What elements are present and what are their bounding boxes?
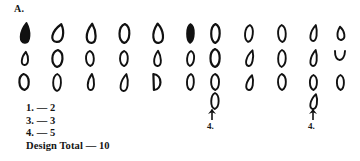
arrow-annotation-label: 4. bbox=[207, 121, 214, 131]
ink-glyph bbox=[274, 47, 290, 70]
ink-glyph bbox=[47, 46, 67, 70]
ink-glyph bbox=[305, 22, 321, 45]
ink-glyph bbox=[183, 21, 198, 46]
ink-glyph bbox=[182, 47, 198, 69]
ink-glyph bbox=[144, 18, 169, 47]
ink-glyph bbox=[82, 47, 99, 69]
ink-glyph bbox=[333, 72, 348, 93]
ink-glyph bbox=[14, 19, 35, 46]
legend-total-row: Design Total — 10 bbox=[26, 140, 110, 153]
ink-glyph bbox=[305, 47, 321, 70]
ink-glyph bbox=[116, 47, 133, 69]
ink-glyph bbox=[240, 46, 258, 70]
ink-glyph bbox=[182, 71, 198, 94]
ink-glyph bbox=[46, 20, 69, 45]
ink-glyph bbox=[306, 72, 321, 93]
legend-row: 4. — 5 bbox=[26, 127, 110, 140]
arrow-annotation-label: 4. bbox=[308, 121, 315, 131]
ink-glyph bbox=[116, 70, 133, 94]
ink-glyph bbox=[240, 21, 258, 46]
ink-glyph bbox=[79, 20, 101, 47]
legend-row: 3. — 3 bbox=[26, 115, 110, 128]
ink-glyph bbox=[241, 71, 258, 93]
legend: 1. — 2 3. — 3 4. — 5 Design Total — 10 bbox=[26, 102, 110, 152]
ink-glyph bbox=[329, 21, 350, 44]
up-arrow-icon bbox=[207, 108, 217, 120]
ink-glyph bbox=[14, 71, 33, 94]
figure-panel-a: A. 1. — 2 3. — 3 4. — 5 Design Total — 1… bbox=[0, 0, 360, 161]
ink-glyph bbox=[114, 20, 134, 46]
ink-glyph bbox=[148, 46, 167, 69]
ink-glyph bbox=[274, 71, 291, 94]
up-arrow-icon bbox=[308, 108, 318, 120]
legend-row: 1. — 2 bbox=[26, 102, 110, 115]
ink-glyph bbox=[149, 71, 166, 93]
ink-glyph bbox=[82, 71, 98, 94]
ink-glyph bbox=[49, 70, 66, 94]
ink-glyph bbox=[274, 21, 291, 45]
ink-glyph bbox=[207, 21, 224, 46]
ink-glyph bbox=[206, 46, 224, 70]
ink-glyph bbox=[16, 48, 33, 68]
ink-glyph bbox=[332, 48, 348, 68]
